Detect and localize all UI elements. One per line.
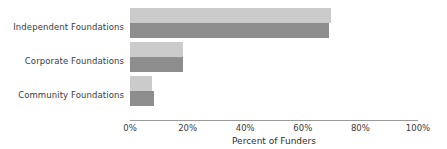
x-axis-ticks: 0% 20% 40% 60% 80% 100% (0, 123, 447, 137)
bar-independent-foundations-series-1 (130, 8, 331, 23)
x-axis-line (130, 120, 418, 121)
x-axis-title: Percent of Funders (130, 136, 418, 146)
bar-corporate-foundations-series-1 (130, 42, 183, 57)
category-label-independent-foundations: Independent Foundations (0, 22, 124, 32)
x-tick-100: 100% (406, 123, 430, 133)
bar-community-foundations-series-2 (130, 91, 154, 106)
x-tick-60: 60% (293, 123, 312, 133)
bar-community-foundations-series-1 (130, 76, 152, 91)
bar-independent-foundations-series-2 (130, 23, 329, 38)
x-tick-20: 20% (178, 123, 197, 133)
bar-group-corporate-foundations (130, 42, 417, 74)
category-label-community-foundations: Community Foundations (0, 90, 124, 100)
bar-group-independent-foundations (130, 8, 417, 40)
category-axis: Independent Foundations Corporate Founda… (0, 0, 128, 120)
bar-group-community-foundations (130, 76, 417, 108)
x-tick-80: 80% (351, 123, 370, 133)
bar-corporate-foundations-series-2 (130, 57, 183, 72)
plot-area (130, 8, 417, 120)
bar-chart: Independent Foundations Corporate Founda… (0, 0, 447, 149)
x-tick-40: 40% (236, 123, 255, 133)
x-tick-0: 0% (123, 123, 137, 133)
category-label-corporate-foundations: Corporate Foundations (0, 56, 124, 66)
